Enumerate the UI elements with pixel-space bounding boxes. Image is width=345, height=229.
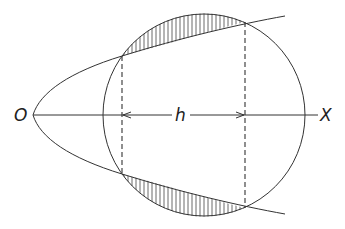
diagram-canvas: O X h: [0, 0, 345, 229]
label-origin: O: [14, 105, 27, 125]
label-distance-h: h: [175, 105, 186, 125]
hatched-region-top: [124, 0, 244, 115]
label-axis-x: X: [319, 105, 332, 125]
hatched-region-bottom: [124, 115, 244, 229]
